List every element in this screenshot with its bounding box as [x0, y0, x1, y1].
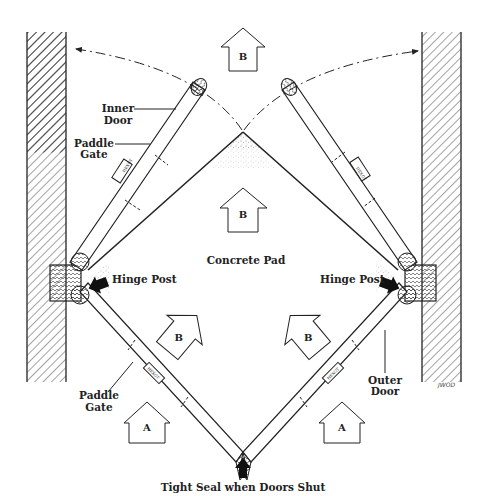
svg-text:A: A: [337, 422, 346, 433]
label-paddle-gate-top: Paddle Gate: [74, 137, 150, 160]
svg-text:B: B: [239, 209, 247, 220]
right-wall: [422, 32, 461, 382]
svg-text:Door: Door: [371, 385, 400, 397]
svg-text:B: B: [304, 332, 312, 343]
door-diagram: HEXGT HEXGT HEXGT HEXGT B: [0, 0, 487, 496]
artist-signature: JWOD: [437, 381, 455, 389]
left-wall: [27, 32, 66, 382]
flow-arrow-bottom-left: A: [124, 402, 170, 443]
label-hinge-post-left: Hinge Post: [112, 273, 177, 285]
swing-arc-right: [244, 51, 418, 130]
swing-arc-left: [76, 49, 242, 130]
svg-text:Gate: Gate: [80, 148, 108, 160]
svg-text:Inner: Inner: [102, 102, 135, 114]
flow-arrow-bottom-right: A: [319, 402, 365, 443]
label-hinge-post-right: Hinge Post: [320, 273, 385, 285]
label-outer-door: Outer Door: [368, 330, 402, 397]
label-paddle-gate-bottom: Paddle Gate: [79, 362, 133, 413]
svg-text:A: A: [142, 422, 151, 433]
label-tight-seal: Tight Seal when Doors Shut: [161, 481, 326, 493]
svg-text:B: B: [175, 332, 183, 343]
svg-text:Gate: Gate: [85, 401, 113, 413]
svg-text:Door: Door: [104, 114, 133, 126]
label-concrete-pad: Concrete Pad: [207, 254, 286, 266]
svg-text:Paddle: Paddle: [79, 389, 119, 401]
flow-arrow-top: B: [221, 28, 265, 71]
svg-text:B: B: [239, 51, 247, 62]
